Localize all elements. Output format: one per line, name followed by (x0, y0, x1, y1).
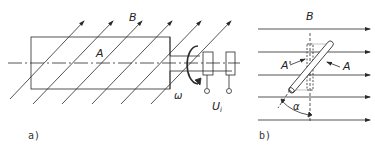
label-projected-area: A' (280, 59, 292, 72)
diagram-canvas: B A ω U i a) B A' A (0, 0, 375, 147)
extension-line (278, 90, 290, 108)
caption-a: a) (28, 130, 40, 141)
label-field-b-b: B (306, 10, 314, 23)
label-angle: α (293, 101, 300, 112)
terminal-1 (205, 89, 210, 94)
terminal-2 (227, 89, 232, 94)
label-voltage-sub: i (220, 106, 222, 114)
leader-a (327, 62, 340, 67)
panel-a (8, 21, 240, 104)
slip-ring-1 (203, 52, 213, 75)
label-omega: ω (174, 90, 182, 101)
label-area-b: A (342, 60, 351, 73)
leader-a-prime (290, 59, 305, 65)
panel-b (258, 29, 370, 123)
tilted-coil (287, 40, 334, 94)
field-lines-a (10, 21, 231, 104)
label-area-a: A (95, 47, 104, 60)
label-voltage: U (212, 100, 220, 113)
field-lines-b (258, 29, 370, 120)
label-field-b-a: B (129, 11, 137, 24)
caption-b: b) (259, 130, 271, 141)
slip-ring-2 (226, 52, 235, 75)
